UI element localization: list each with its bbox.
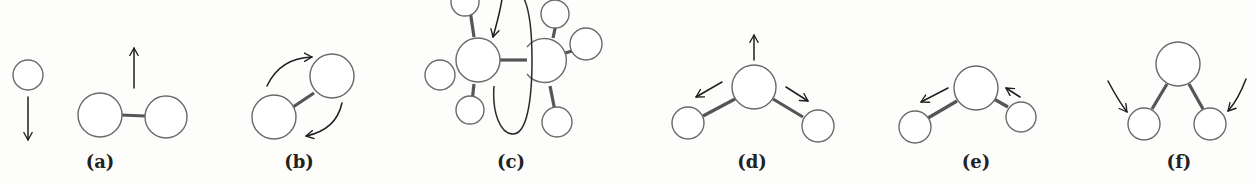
central-atom <box>1156 42 1200 86</box>
atom-right <box>802 110 834 142</box>
bond <box>293 93 314 107</box>
atom-lower-left <box>252 95 296 139</box>
panel-d: (d) <box>672 35 834 172</box>
carbon-atom-right <box>527 39 566 83</box>
panel-label-d: (d) <box>737 151 767 172</box>
panel-label-c: (c) <box>497 151 525 172</box>
hydrogen-atom <box>542 107 572 137</box>
hydrogen-atom <box>541 0 569 28</box>
panel-label-b: (b) <box>284 151 314 172</box>
hydrogen-atom <box>451 0 479 16</box>
molecular-motion-figure: (a) (b) (c) <box>0 0 1255 183</box>
panel-b: (b) <box>252 54 354 172</box>
bond <box>121 115 145 116</box>
bond <box>703 99 735 116</box>
bond <box>1189 84 1203 109</box>
torsion-arrow <box>493 0 503 37</box>
rotation-arrow-lower <box>306 103 342 136</box>
arrow-left <box>1108 81 1127 112</box>
central-atom <box>732 65 776 109</box>
atom-right <box>1006 102 1036 132</box>
arrow-right <box>786 87 808 101</box>
single-atom <box>13 60 43 90</box>
arrow-upper-left <box>1006 88 1020 97</box>
arrow-left <box>921 88 948 102</box>
bond <box>1152 84 1167 109</box>
atom-right <box>1194 108 1226 140</box>
bond <box>994 99 1008 107</box>
hydrogen-atom <box>425 60 455 90</box>
atom-right <box>145 96 187 138</box>
atom-left <box>899 111 931 143</box>
panel-e: (e) <box>899 66 1036 172</box>
arrow-right <box>1228 79 1246 111</box>
bond <box>928 101 957 118</box>
panel-label-f: (f) <box>1167 151 1192 172</box>
panel-label-e: (e) <box>962 151 991 172</box>
rotation-arrow-upper <box>267 57 312 86</box>
atom-left <box>1128 108 1160 140</box>
atom-left <box>78 93 122 137</box>
panel-c: (c) <box>425 0 602 172</box>
bond <box>773 99 803 117</box>
atom-left <box>672 107 704 139</box>
panel-a: (a) <box>13 48 187 172</box>
arrow-left <box>696 82 722 97</box>
central-atom <box>954 66 998 110</box>
panel-label-a: (a) <box>86 151 115 172</box>
atom-upper-right <box>310 54 354 98</box>
hydrogen-atom <box>570 28 602 60</box>
carbon-atom-left <box>456 38 500 82</box>
panel-f: (f) <box>1108 42 1246 172</box>
hydrogen-atom <box>456 96 484 124</box>
